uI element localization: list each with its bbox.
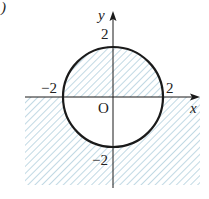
tick-label-y-neg: −2 [92,152,108,168]
x-axis-label: x [189,100,197,116]
corner-mark: ) [0,0,6,16]
tick-label-x-pos: 2 [166,80,174,96]
diagram-canvas: ) y x O 2 −2 −2 2 [0,0,209,199]
tick-label-x-neg: −2 [41,80,57,96]
tick-label-y-pos: 2 [101,26,109,42]
origin-label: O [98,100,109,116]
y-axis-label: y [96,7,105,23]
